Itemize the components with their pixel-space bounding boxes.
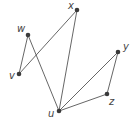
graph-diagram: xwvuzy (0, 0, 139, 125)
edge-y-z (107, 52, 118, 94)
node-label-u: u (48, 108, 54, 119)
node-v (17, 72, 22, 77)
graph-nodes (17, 8, 121, 114)
node-label-w: w (17, 23, 26, 34)
edge-u-z (59, 94, 107, 111)
node-y (116, 50, 121, 55)
node-w (26, 33, 31, 38)
edge-x-v (19, 10, 77, 74)
node-label-x: x (67, 0, 74, 11)
edge-w-v (19, 35, 28, 74)
node-x (75, 8, 80, 13)
node-label-y: y (122, 41, 130, 52)
node-u (57, 109, 62, 114)
node-label-v: v (9, 70, 16, 81)
graph-edges (19, 10, 118, 111)
node-label-z: z (108, 96, 115, 107)
